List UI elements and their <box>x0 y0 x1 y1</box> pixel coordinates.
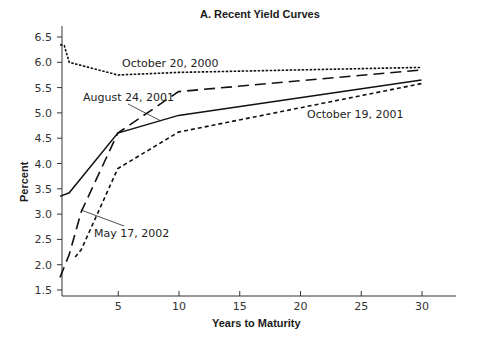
y-axis-title: Percent <box>18 161 30 202</box>
x-tick-label: 10 <box>172 300 186 313</box>
annotations: October 20, 2000 August 24, 2001 October… <box>81 57 404 240</box>
y-tick-label: 4.5 <box>35 132 53 145</box>
y-tick-label: 3.0 <box>35 208 53 221</box>
y-tick-label: 2.0 <box>35 259 53 272</box>
annotation-may-2002: May 17, 2002 <box>94 227 169 240</box>
series-line-october-20-2000 <box>60 45 422 75</box>
y-tick-label: 3.5 <box>35 183 53 196</box>
yield-curve-chart: A. Recent Yield Curves 1.52.02.53.03.54.… <box>0 0 477 338</box>
y-tick-label: 6.0 <box>35 56 53 69</box>
chart-title: A. Recent Yield Curves <box>200 8 320 20</box>
annotation-aug-2001: August 24, 2001 <box>83 91 174 104</box>
leader-aug-2001 <box>128 104 161 121</box>
axes: 1.52.02.53.03.54.04.55.05.56.06.5 510152… <box>35 26 457 313</box>
x-tick-label: 5 <box>115 300 122 313</box>
y-tick-label: 5.5 <box>35 82 53 95</box>
y-tick-label: 4.0 <box>35 158 53 171</box>
leader-may-2002 <box>81 210 124 226</box>
y-tick-label: 6.5 <box>35 31 53 44</box>
y-tick-label: 2.5 <box>35 233 53 246</box>
series-lines <box>60 45 422 278</box>
x-tick-label: 15 <box>233 300 247 313</box>
y-tick-label: 5.0 <box>35 107 53 120</box>
x-ticks: 51015202530 <box>115 291 429 313</box>
x-axis-title: Years to Maturity <box>212 317 302 329</box>
x-tick-label: 25 <box>354 300 368 313</box>
y-tick-label: 1.5 <box>35 284 53 297</box>
annotation-oct-2001: October 19, 2001 <box>307 108 404 121</box>
y-ticks: 1.52.02.53.03.54.04.55.05.56.06.5 <box>35 31 63 297</box>
x-tick-label: 30 <box>415 300 429 313</box>
x-tick-label: 20 <box>294 300 308 313</box>
annotation-oct-2000: October 20, 2000 <box>122 57 219 70</box>
